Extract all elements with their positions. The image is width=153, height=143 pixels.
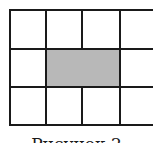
grid-cell [45,86,83,126]
grid-cell [9,48,47,88]
grid-cell [119,9,153,50]
grid-cell [81,9,121,50]
grid-cell [45,9,83,50]
figure-caption: Рисунок 2 [0,134,153,143]
grid-cell [119,86,153,126]
grid-figure [9,9,153,125]
shaded-cell [45,48,121,88]
grid-cell [9,9,47,50]
grid-cell [9,86,47,126]
grid-cell [119,48,153,88]
grid-cell [81,86,121,126]
